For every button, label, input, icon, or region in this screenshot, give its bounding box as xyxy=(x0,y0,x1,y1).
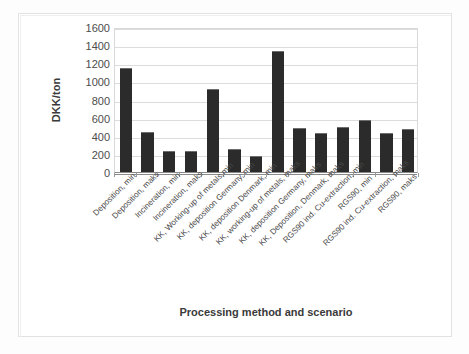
bars-layer xyxy=(115,29,417,172)
y-axis-tick-label: 1200 xyxy=(86,59,110,70)
bar xyxy=(141,132,153,172)
bar xyxy=(120,68,132,172)
y-axis-tick-label: 600 xyxy=(92,113,110,124)
y-axis-title: DKK/ton xyxy=(45,52,67,148)
y-axis-tick-label: 200 xyxy=(92,149,110,160)
y-axis-tick-label: 1000 xyxy=(86,77,110,88)
y-axis-tick-label: 1600 xyxy=(86,23,110,34)
bar xyxy=(380,133,392,172)
bar-chart-figure: DKK/ton 16001400120010008006004002000 De… xyxy=(0,0,469,354)
y-axis-title-text: DKK/ton xyxy=(50,78,62,123)
x-axis-category-labels: Deposition, minDeposition, maksIncinerat… xyxy=(0,177,469,297)
y-axis-tick-label: 1400 xyxy=(86,41,110,52)
plot-area xyxy=(114,28,418,173)
bar xyxy=(272,51,284,172)
y-axis-tick-label: 800 xyxy=(92,95,110,106)
y-axis-tick-labels: 16001400120010008006004002000 xyxy=(70,22,110,174)
bar xyxy=(207,89,219,172)
y-axis-tick-label: 400 xyxy=(92,131,110,142)
bar xyxy=(163,151,175,172)
x-axis-title: Processing method and scenario xyxy=(114,306,418,318)
bar xyxy=(185,151,197,172)
